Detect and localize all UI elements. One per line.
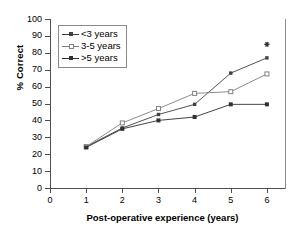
series-2-point-6 [265,72,269,76]
series-3-point-3 [156,118,160,122]
legend-item-1: 3-5 years [62,40,121,52]
series-3-point-2 [120,127,124,131]
series-line-3 [86,104,267,147]
series-2-point-2 [120,121,124,125]
series-1-point-5 [229,71,232,74]
series-2-point-3 [156,107,160,111]
series-2 [84,72,269,149]
legend-key-icon-1 [62,41,79,51]
series-2-point-5 [229,90,233,94]
series-1-point-3 [157,113,160,116]
series-3-point-1 [84,145,88,149]
legend-marker-2 [69,56,73,60]
legend-item-2: >5 years [62,52,121,64]
legend: <3 years 3-5 years >5 years [58,25,127,68]
legend-label-0: <3 years [81,29,118,39]
series-3-point-4 [193,115,197,119]
legend-key-icon-0 [62,29,79,39]
series-line-2 [86,74,267,147]
series-plot [0,0,308,232]
chart-container: % Correct 0102030405060708090100 0123456… [0,0,308,232]
legend-key-icon-2 [62,53,79,63]
legend-item-0: <3 years [62,28,121,40]
legend-marker-0 [69,32,73,36]
annotation-asterisk-0 [264,42,269,47]
series-2-point-4 [193,91,197,95]
series-1-point-4 [193,103,196,106]
legend-label-1: 3-5 years [81,41,121,51]
series-3-point-6 [265,102,269,106]
legend-marker-1 [69,44,74,49]
x-axis-title: Post-operative experience (years) [40,212,285,223]
series-3-point-5 [229,102,233,106]
series-1-point-6 [265,56,268,59]
legend-label-2: >5 years [81,53,118,63]
